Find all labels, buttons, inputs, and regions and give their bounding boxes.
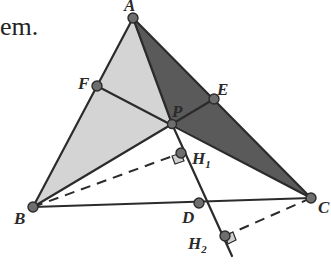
label-H1-main: H bbox=[191, 149, 206, 168]
label-P: P bbox=[171, 102, 183, 121]
label-A: A bbox=[123, 0, 135, 15]
point-B bbox=[28, 202, 38, 212]
point-F bbox=[92, 81, 102, 91]
label-B: B bbox=[13, 209, 25, 228]
point-C bbox=[306, 193, 316, 203]
dashed-segment-CH2 bbox=[225, 198, 311, 236]
label-H1: H1 bbox=[191, 149, 211, 170]
label-F: F bbox=[77, 74, 90, 93]
label-E: E bbox=[216, 80, 228, 99]
label-H2: H2 bbox=[187, 234, 207, 255]
label-H2-sub: 2 bbox=[200, 243, 207, 255]
geometry-diagram: A B C P F E D H1 H2 bbox=[0, 0, 331, 267]
point-H2 bbox=[220, 231, 230, 241]
point-H1 bbox=[176, 148, 186, 158]
label-H1-sub: 1 bbox=[205, 158, 211, 170]
label-C: C bbox=[318, 198, 330, 217]
point-D bbox=[194, 198, 204, 208]
label-H2-main: H bbox=[187, 234, 202, 253]
segment-BC bbox=[33, 198, 311, 207]
label-D: D bbox=[181, 208, 194, 227]
